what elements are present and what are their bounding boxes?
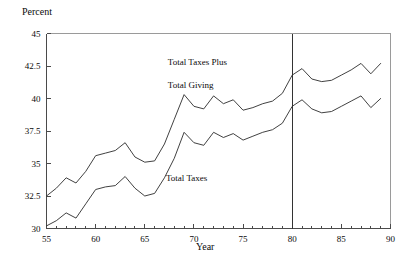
- x-tick-label: 65: [140, 234, 150, 244]
- x-tick-label: 80: [288, 234, 298, 244]
- series-line: [47, 63, 381, 196]
- y-tick-label: 42.5: [25, 61, 41, 71]
- line-chart-plot: 55606570758085903032.53537.54042.545: [0, 0, 412, 260]
- plot-frame: [47, 34, 391, 229]
- y-tick-label: 32.5: [25, 191, 41, 201]
- series-line: [47, 96, 381, 226]
- y-tick-label: 40: [32, 94, 42, 104]
- x-tick-label: 55: [42, 234, 52, 244]
- x-tick-label: 90: [386, 234, 396, 244]
- y-tick-label: 37.5: [25, 126, 41, 136]
- x-tick-label: 70: [189, 234, 199, 244]
- chart-container: Percent Year Total Taxes Plus Total Givi…: [0, 0, 412, 260]
- x-tick-label: 85: [337, 234, 347, 244]
- data-series-lines: [47, 63, 381, 226]
- y-tick-label: 45: [32, 29, 42, 39]
- y-tick-label: 35: [32, 159, 42, 169]
- axis-ticks: [47, 34, 391, 229]
- x-tick-label: 60: [91, 234, 101, 244]
- y-tick-label: 30: [32, 224, 42, 234]
- x-tick-label: 75: [239, 234, 249, 244]
